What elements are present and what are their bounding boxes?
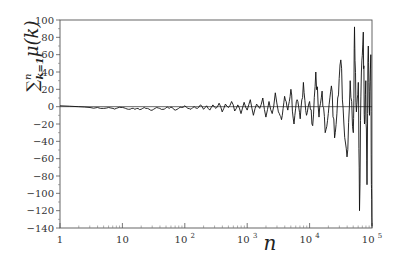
mertens-chart: 100806040200−20−40−60−80−100−120−140 110… [0, 0, 399, 258]
y-tick-label: 80 [41, 32, 54, 43]
x-axis-title: n [264, 231, 277, 255]
y-tick-label: −140 [27, 223, 54, 234]
y-tick-label: −80 [33, 171, 54, 182]
y-tick-label: −120 [27, 205, 54, 216]
y-tick-label: −60 [33, 153, 54, 164]
x-tick-label: 10 2 [175, 232, 195, 245]
y-tick-label: 20 [41, 84, 54, 95]
y-tick-label: −40 [33, 136, 54, 147]
x-tick-label: 1 [57, 234, 63, 245]
y-tick-label: −20 [33, 119, 54, 130]
data-series-line [60, 27, 372, 226]
y-tick-label: −100 [27, 188, 54, 199]
x-tick-label: 10 3 [237, 232, 257, 245]
y-tick-label: 0 [48, 101, 54, 112]
x-axis: 11010 210 310 410 5 [57, 223, 382, 245]
x-tick-label: 10 4 [299, 232, 320, 245]
x-tick-label: 10 [116, 234, 129, 245]
svg-text:∑nk=1μ(k): ∑nk=1μ(k) [21, 21, 45, 92]
x-tick-label: 10 5 [362, 232, 382, 245]
y-axis-title: ∑nk=1μ(k) [21, 21, 45, 92]
